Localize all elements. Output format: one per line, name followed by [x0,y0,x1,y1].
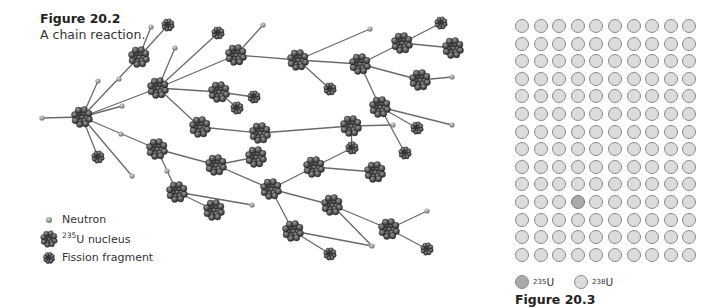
uranium-nucleus [282,220,303,241]
u238-atom [682,54,696,68]
legend-label: Neutron [62,213,106,226]
u238-atom [571,37,585,51]
u238-atom [664,213,678,227]
u238-atom [589,89,603,103]
uranium-nucleus [378,218,399,239]
u238-atom [515,107,529,121]
u238-atom [589,248,603,262]
uranium-nucleus [205,154,226,175]
u238-atom [608,125,622,139]
u238-atom [627,89,641,103]
u238-atom [645,160,659,174]
u238-atom [589,54,603,68]
uranium-nucleus [409,69,430,90]
u238-atom [515,89,529,103]
u238-atom [627,142,641,156]
figure-20-2-title: Figure 20.2 [40,11,121,26]
u238-atom [589,19,603,33]
legend-fragment: Fission fragment [36,248,153,267]
uranium-nucleus [260,178,281,199]
u238-atom [645,213,659,227]
u238-atom [682,142,696,156]
u238-atom [552,89,566,103]
u238-atom [682,248,696,262]
fission-fragment [248,91,261,104]
u238-atom [589,195,603,209]
neutron [116,76,121,81]
neutron [39,115,44,120]
u238-atom [664,54,678,68]
u238-atom [645,230,659,244]
legend-label: 235U nucleus [62,231,130,246]
u238-atom [534,142,548,156]
figure-20-2-caption: A chain reaction. [40,27,145,42]
u238-atom [534,89,548,103]
u235-atom-icon [515,275,529,289]
u238-atom [571,19,585,33]
neutron [260,22,265,27]
u238-atom [571,125,585,139]
u238-atom [589,142,603,156]
u238-atom [608,160,622,174]
neutron [449,74,454,79]
u238-atom [627,230,641,244]
u238-atom [534,248,548,262]
u238-atom [515,177,529,191]
u238-atom [589,177,603,191]
u238-atom [589,213,603,227]
u238-atom [664,160,678,174]
u238-atom [682,72,696,86]
uranium-nucleus [245,146,266,167]
neutron [164,168,169,173]
u238-atom [534,54,548,68]
u238-atom [552,37,566,51]
neutron [424,208,429,213]
u238-atom [589,37,603,51]
uranium-nucleus [364,161,385,182]
fission-fragment [421,243,434,256]
u238-atom [552,195,566,209]
u238-atom [608,37,622,51]
u238-atom [571,230,585,244]
u238-atom [682,230,696,244]
u238-atom [608,19,622,33]
u238-atom [682,160,696,174]
u238-atom [682,177,696,191]
u238-atom [664,19,678,33]
u238-atom [608,248,622,262]
u238-atom [552,213,566,227]
neutron-path [158,33,218,88]
u238-atom [571,89,585,103]
u238-atom [515,213,529,227]
u238-atom [534,107,548,121]
fission-fragment-icon [36,251,62,265]
neutron [367,26,372,31]
u238-atom [627,195,641,209]
neutron [129,173,134,178]
u238-atom [515,142,529,156]
fission-fragment [411,122,424,135]
fission-fragment [92,151,105,164]
u238-atom [534,19,548,33]
u238-atom [515,37,529,51]
uranium-nucleus [391,32,412,53]
fission-fragment [346,142,359,155]
u238-atom [571,107,585,121]
u238-atom [552,72,566,86]
neutron [95,78,100,83]
u238-atom [664,107,678,121]
u238-atom [664,142,678,156]
fission-fragment [399,147,412,160]
u238-atom [534,230,548,244]
u238-atom [645,177,659,191]
u238-atom [515,54,529,68]
neutron-path [260,126,351,133]
u238-atom [645,248,659,262]
uranium-nucleus [369,96,390,117]
u238-atom [552,160,566,174]
u238-atom [515,230,529,244]
u238-atom [608,142,622,156]
neutron [449,122,454,127]
chain-reaction-legend: Neutron 235U nucleus Fission fragment [36,210,153,267]
u238-atom [682,125,696,139]
